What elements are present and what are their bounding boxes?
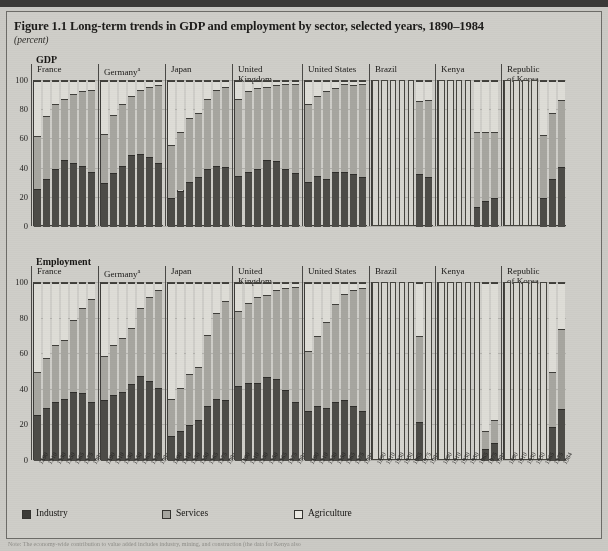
segment-agriculture — [323, 283, 330, 322]
bar-germany-emp-1975 — [146, 282, 153, 460]
segment-industry — [101, 183, 108, 227]
segment-industry — [61, 160, 68, 227]
bar-uk-emp-1950 — [263, 282, 270, 460]
segment-services — [425, 100, 432, 177]
segment-industry — [263, 160, 270, 227]
segment-industry — [101, 400, 108, 461]
panel-title-brazil-gdp: Brazil — [371, 64, 437, 74]
segment-agriculture — [195, 283, 202, 367]
segment-services — [341, 294, 348, 401]
bar-france-emp-1910 — [43, 282, 50, 460]
segment-industry — [282, 169, 289, 227]
segment-agriculture — [222, 283, 229, 301]
segment-agriculture — [254, 283, 261, 297]
segment-agriculture — [88, 283, 95, 299]
y-axis-tick-label: 100 — [8, 277, 28, 287]
segment-agriculture — [416, 283, 423, 336]
panel-separator — [165, 266, 166, 460]
bar-germany-gdp-1930 — [119, 80, 126, 226]
bar-japan-gdp-1975 — [213, 80, 220, 226]
segment-agriculture — [52, 81, 59, 104]
segment-services — [323, 322, 330, 407]
segment-agriculture — [425, 81, 432, 100]
panel-separator — [165, 64, 166, 226]
legend-swatch-services — [162, 510, 171, 519]
segment-agriculture — [186, 283, 193, 374]
bar-japan-emp-1984 — [222, 282, 229, 460]
bar-usa-gdp-1984 — [359, 80, 366, 226]
segment-services — [137, 90, 144, 154]
segment-agriculture — [305, 283, 312, 351]
bar-empty — [390, 80, 397, 226]
bar-korea-gdp-1975 — [549, 80, 556, 226]
segment-agriculture — [177, 283, 184, 388]
segment-industry — [305, 182, 312, 227]
bar-usa-emp-1950 — [332, 282, 339, 460]
bar-uk-emp-1975 — [282, 282, 289, 460]
segment-industry — [204, 169, 211, 227]
bar-empty — [399, 282, 406, 460]
bar-empty — [381, 282, 388, 460]
bar-empty — [408, 282, 415, 460]
segment-industry — [273, 379, 280, 461]
segment-agriculture — [235, 283, 242, 311]
legend: IndustryServicesAgriculture — [22, 508, 362, 524]
segment-services — [213, 313, 220, 398]
segment-services — [52, 345, 59, 402]
segment-services — [549, 113, 556, 179]
segment-services — [282, 84, 289, 169]
panel-separator — [369, 266, 370, 460]
bar-usa-emp-1984 — [359, 282, 366, 460]
segment-agriculture — [245, 81, 252, 91]
segment-industry — [549, 179, 556, 227]
segment-services — [245, 91, 252, 171]
segment-industry — [254, 169, 261, 227]
panel-title-kenya-gdp: Kenya — [437, 64, 503, 74]
bar-usa-gdp-1910 — [314, 80, 321, 226]
segment-services — [128, 328, 135, 385]
segment-industry — [128, 384, 135, 461]
segment-agriculture — [137, 81, 144, 90]
y-axis-tick-label: 20 — [8, 419, 28, 429]
segment-agriculture — [482, 283, 489, 431]
panel-title-germany-gdp: Germanya — [100, 64, 167, 77]
figure-subtitle: (percent) — [14, 35, 48, 45]
segment-agriculture — [88, 81, 95, 90]
bar-usa-emp-1930 — [323, 282, 330, 460]
bar-france-emp-1965 — [70, 282, 77, 460]
segment-services — [110, 115, 117, 173]
segment-industry — [119, 166, 126, 227]
bar-france-emp-1890 — [34, 282, 41, 460]
segment-industry — [341, 172, 348, 227]
segment-agriculture — [323, 81, 330, 91]
panel-separator — [302, 266, 303, 460]
bar-empty — [456, 282, 463, 460]
segment-agriculture — [34, 283, 41, 372]
segment-services — [119, 338, 126, 391]
bar-france-emp-1950 — [61, 282, 68, 460]
bar-kenya-gdp-1965 — [474, 80, 481, 226]
panel-title-france-emp: France — [33, 266, 100, 276]
y-axis-tick-label: 0 — [8, 455, 28, 465]
segment-services — [34, 372, 41, 415]
figure-page: Figure 1.1 Long-term trends in GDP and e… — [0, 0, 608, 551]
segment-services — [177, 388, 184, 431]
segment-agriculture — [128, 283, 135, 328]
segment-services — [305, 104, 312, 181]
segment-services — [168, 399, 175, 436]
segment-industry — [137, 154, 144, 227]
bar-empty — [504, 80, 511, 226]
segment-services — [101, 134, 108, 184]
segment-industry — [155, 388, 162, 461]
bar-empty — [447, 80, 454, 226]
page-top-rule — [0, 0, 608, 7]
bar-uk-emp-1890 — [235, 282, 242, 460]
segment-industry — [110, 173, 117, 227]
segment-industry — [70, 163, 77, 227]
bar-usa-emp-1890 — [305, 282, 312, 460]
segment-agriculture — [263, 283, 270, 295]
segment-agriculture — [34, 81, 41, 136]
segment-agriculture — [128, 81, 135, 96]
segment-agriculture — [314, 81, 321, 96]
segment-services — [292, 84, 299, 173]
